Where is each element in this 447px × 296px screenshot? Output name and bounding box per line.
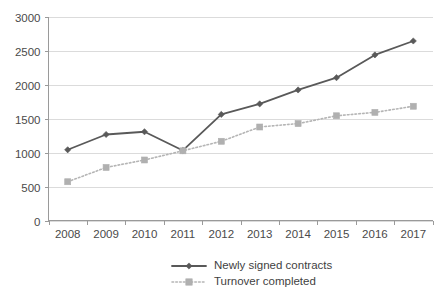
- x-tick-label: 2014: [285, 228, 311, 240]
- data-point-marker: [65, 179, 71, 185]
- data-point-marker: [257, 124, 263, 130]
- x-tick-label: 2016: [362, 228, 388, 240]
- chart-container: 050010001500200025003000 200820092010201…: [0, 0, 447, 296]
- x-tick-label: 2017: [401, 228, 427, 240]
- data-point-marker: [410, 103, 416, 109]
- y-tick-label: 1500: [15, 114, 41, 126]
- y-tick-label: 0: [34, 216, 40, 228]
- y-tick-label: 2000: [15, 80, 41, 92]
- y-tick-label: 3000: [15, 12, 41, 24]
- data-point-marker: [372, 109, 378, 115]
- y-tick-label: 2500: [15, 46, 41, 58]
- data-point-marker: [218, 138, 224, 144]
- x-tick-label: 2009: [93, 228, 119, 240]
- x-tick-label: 2012: [209, 228, 235, 240]
- y-tick-label: 1000: [15, 148, 41, 160]
- legend-label-2: Turnover completed: [214, 275, 316, 287]
- line-chart: 050010001500200025003000 200820092010201…: [0, 0, 447, 296]
- data-point-marker: [295, 121, 301, 127]
- data-point-marker: [103, 164, 109, 170]
- legend-label-1: Newly signed contracts: [214, 259, 332, 271]
- data-point-marker: [334, 113, 340, 119]
- legend-marker-2: [186, 279, 192, 285]
- x-tick-label: 2013: [247, 228, 273, 240]
- x-tick-label: 2008: [55, 228, 81, 240]
- x-tick-label: 2011: [171, 228, 196, 240]
- x-tick-label: 2015: [324, 228, 350, 240]
- data-point-marker: [142, 157, 148, 163]
- y-tick-label: 500: [21, 182, 40, 194]
- x-tick-label: 2010: [132, 228, 158, 240]
- data-point-marker: [180, 148, 186, 154]
